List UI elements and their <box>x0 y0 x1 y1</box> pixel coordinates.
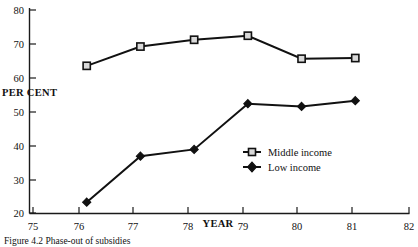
figure-caption-text: Figure 4.2 Phase-out of subsidies <box>4 236 130 246</box>
figure-caption: Figure 4.2 Phase-out of subsidies <box>4 236 304 247</box>
x-tick-label-78: 78 <box>183 221 194 232</box>
x-tick-label-82: 82 <box>404 221 415 232</box>
y-tick-label-40: 40 <box>14 141 25 152</box>
filled-diamond-icon <box>298 102 306 110</box>
legend-entry-middle-income[interactable]: Middle income <box>243 147 332 158</box>
filled-diamond-icon <box>351 97 359 105</box>
x-tick-label-79: 79 <box>238 221 249 232</box>
x-tick-label-76: 76 <box>74 221 85 232</box>
series-middle-income <box>83 32 359 69</box>
y-axis: 80 70 60 50 40 30 20 PER CENT <box>2 5 57 219</box>
y-tick-label-60: 60 <box>14 73 25 84</box>
filled-diamond-icon <box>248 162 257 172</box>
x-tick-label-75: 75 <box>28 221 39 232</box>
x-axis-title: YEAR <box>203 218 234 229</box>
y-tick-label-30: 30 <box>14 175 25 186</box>
y-axis-title: PER CENT <box>2 87 57 98</box>
y-tick-label-80: 80 <box>14 5 25 16</box>
open-square-icon <box>352 54 359 61</box>
open-square-icon <box>191 36 198 43</box>
y-tick-label-20: 20 <box>14 208 25 219</box>
y-tick-label-50: 50 <box>14 107 25 118</box>
legend: Middle income Low income <box>243 147 332 173</box>
open-square-icon <box>137 43 144 50</box>
x-tick-label-81: 81 <box>347 221 358 232</box>
legend-label-middle-income: Middle income <box>268 147 332 158</box>
open-square-icon <box>249 149 256 156</box>
series-line-0 <box>87 36 356 66</box>
y-tick-label-70: 70 <box>14 39 25 50</box>
x-tick-label-80: 80 <box>292 221 303 232</box>
open-square-icon <box>244 32 251 39</box>
legend-entry-low-income[interactable]: Low income <box>243 162 321 173</box>
series-layer <box>83 32 360 206</box>
x-axis: 75 76 77 78 79 80 81 82 YEAR <box>28 207 415 232</box>
x-tick-label-77: 77 <box>128 221 139 232</box>
open-square-icon <box>298 55 305 62</box>
legend-label-low-income: Low income <box>268 162 321 173</box>
open-square-icon <box>83 62 90 69</box>
